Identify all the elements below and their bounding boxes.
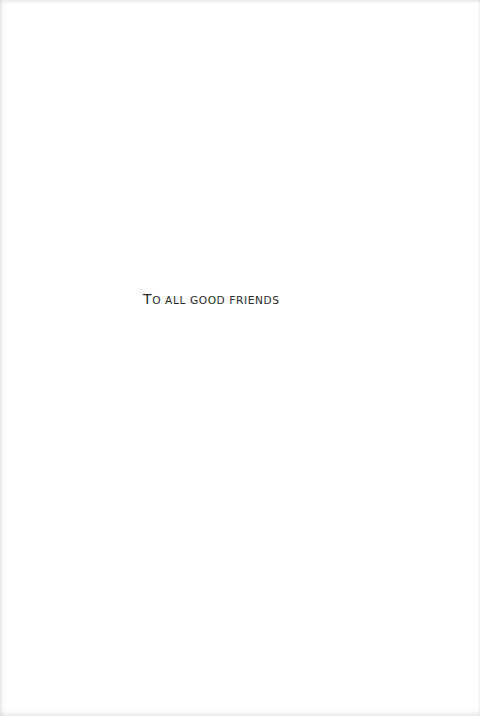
dedication-text: To all good friends: [143, 291, 280, 308]
dedication-initial: T: [143, 291, 152, 307]
book-page: To all good friends: [0, 0, 480, 716]
dedication-rest: o all good friends: [152, 294, 279, 306]
